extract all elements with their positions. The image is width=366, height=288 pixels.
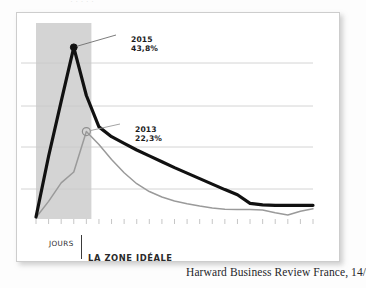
- ideal-zone-label: LA ZONE IDÉALE: [88, 253, 173, 263]
- top-bleed-text: · · · · ·: [70, 0, 300, 6]
- annotation-2013: 2013 22,3%: [135, 125, 162, 144]
- annotation-2013-year: 2013: [135, 125, 162, 134]
- series-marker-2015: [70, 44, 77, 51]
- source-caption: Harward Business Review France, 14/01/20…: [186, 266, 366, 278]
- leader-line-2013: [90, 124, 120, 131]
- annotation-2015: 2015 43,8%: [131, 35, 158, 54]
- x-axis-label: JOURS: [49, 239, 74, 248]
- ideal-zone-band: [36, 23, 91, 219]
- annotation-2015-value: 43,8%: [131, 44, 158, 53]
- x-axis-ticks: [36, 219, 313, 224]
- screenshot-root: · · · · ·: [0, 0, 366, 288]
- annotation-2013-value: 22,3%: [135, 134, 162, 143]
- zone-divider: [81, 235, 82, 259]
- chart-card: 2015 43,8% 2013 22,3% JOURS LA ZONE IDÉA…: [16, 12, 340, 262]
- line-chart: [17, 13, 341, 263]
- annotation-2015-year: 2015: [131, 35, 158, 44]
